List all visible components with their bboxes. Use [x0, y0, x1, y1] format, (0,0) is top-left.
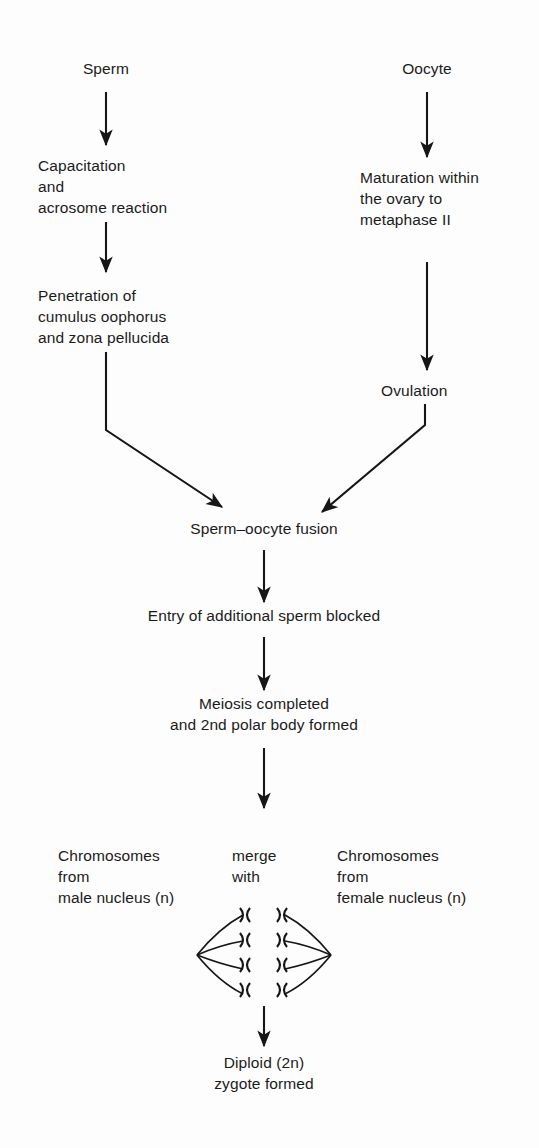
node-ovulation: Ovulation [381, 380, 521, 401]
node-female-chromosomes: Chromosomes from female nucleus (n) [337, 845, 537, 908]
male-chromosome-column [240, 908, 250, 997]
node-merge-with: merge with [232, 845, 322, 887]
node-meiosis-completed: Meiosis completed and 2nd polar body for… [84, 693, 444, 735]
node-diploid-zygote: Diploid (2n) zygote formed [154, 1052, 374, 1094]
chromosome-spindle-figure [197, 908, 331, 997]
node-oocyte: Oocyte [377, 58, 477, 79]
node-sperm: Sperm [56, 58, 156, 79]
female-chromosome-column [277, 908, 287, 997]
node-entry-blocked: Entry of additional sperm blocked [84, 605, 444, 626]
arrow-ovulation-to-fusion [322, 404, 425, 512]
node-capacitation: Capacitation and acrosome reaction [38, 155, 268, 218]
node-maturation: Maturation within the ovary to metaphase… [360, 167, 539, 230]
node-sperm-oocyte-fusion: Sperm–oocyte fusion [124, 518, 404, 539]
arrow-penetration-to-fusion [106, 352, 222, 507]
node-male-chromosomes: Chromosomes from male nucleus (n) [58, 845, 238, 908]
diagram-canvas: Sperm Oocyte Capacitation and acrosome r… [0, 0, 539, 1148]
node-penetration: Penetration of cumulus oophorus and zona… [38, 285, 278, 348]
